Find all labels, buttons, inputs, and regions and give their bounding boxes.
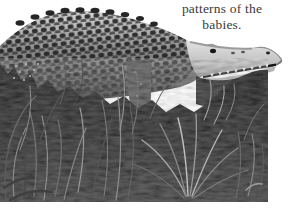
crocodile-eye: [210, 49, 216, 53]
grass: [0, 58, 268, 202]
page: patterns of the babies.: [0, 0, 290, 215]
nostril: [266, 52, 270, 55]
caption-text: patterns of the babies.: [156, 1, 288, 33]
caption-line-1: patterns of the: [156, 1, 288, 17]
caption-line-2: babies.: [156, 17, 288, 33]
